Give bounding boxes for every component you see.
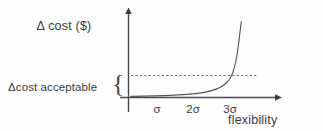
cost-flexibility-figure: Δ cost ($) Δcost acceptable { σ 2σ 3σ fl… [0, 0, 323, 131]
x-axis-arrowhead [275, 94, 282, 101]
x-tick-label-2sigma: 2σ [186, 104, 200, 116]
x-axis [120, 94, 282, 101]
x-axis-label: flexibility [228, 114, 277, 127]
y-axis-arrowhead [125, 8, 132, 15]
threshold-label: Δcost acceptable [8, 82, 97, 94]
cost-curve [131, 22, 241, 97]
acceptable-range-brace: { [112, 71, 124, 97]
x-tick-label-sigma: σ [153, 104, 160, 116]
y-axis-label: Δ cost ($) [0, 20, 128, 33]
